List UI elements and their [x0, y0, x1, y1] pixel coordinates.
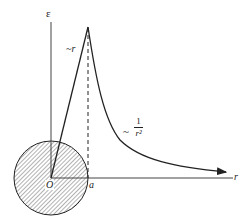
field-diagram: ε ~r O a r ~ 1 r² — [0, 0, 244, 222]
x-axis-label: r — [234, 172, 238, 182]
outside-trend-prefix: ~ — [123, 126, 129, 137]
diagram-graphics — [0, 0, 244, 222]
y-axis-label: ε — [46, 8, 51, 19]
inside-trend-label: ~r — [66, 44, 75, 54]
origin-label: O — [45, 180, 54, 190]
fraction-numerator: 1 — [136, 117, 141, 126]
outside-field-curve — [88, 27, 226, 172]
fraction-denominator: r² — [135, 129, 141, 138]
outside-trend-fraction: 1 r² — [134, 117, 143, 138]
radius-label: a — [89, 180, 94, 190]
